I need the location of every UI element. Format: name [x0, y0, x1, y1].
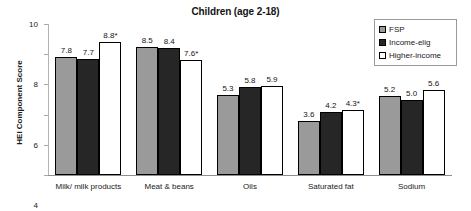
bar-group: 7.87.78.8* [48, 24, 129, 175]
y-tick-label: 6 [34, 140, 38, 149]
bar-value-label: 7.7 [83, 48, 94, 57]
bar [136, 47, 158, 175]
legend-swatch-icon [379, 52, 386, 59]
bar-value-label: 7.8 [61, 46, 72, 55]
bar-column: 5.8 [239, 24, 261, 175]
bar-value-label: 4.2 [325, 101, 336, 110]
y-tick-label: 8 [34, 80, 38, 89]
bar-value-label: 4.3* [346, 99, 360, 108]
bar [180, 60, 202, 175]
x-axis-line [48, 175, 452, 176]
bar-column: 5.9 [261, 24, 283, 175]
y-axis-title: HEI Component Score [15, 43, 24, 163]
bar-value-label: 5.6 [428, 79, 439, 88]
legend-item-higher-income: Higher-income [379, 49, 453, 62]
bar [239, 87, 261, 175]
bar-value-label: 3.6 [303, 110, 314, 119]
bar-value-label: 5.9 [266, 75, 277, 84]
bar [298, 121, 320, 175]
legend-swatch-icon [379, 39, 386, 46]
x-axis-label: Oils [243, 182, 257, 191]
bar [379, 96, 401, 175]
bar-value-label: 8.8* [103, 31, 117, 40]
bar-value-label: 7.6* [184, 49, 198, 58]
bar [342, 110, 364, 175]
legend-item-fsp: FSP [379, 23, 453, 36]
bar-value-label: 5.2 [384, 85, 395, 94]
legend-label: Higher-income [389, 51, 441, 60]
bar-value-label: 8.4 [164, 37, 175, 46]
bar [423, 90, 445, 175]
bar [77, 59, 99, 175]
x-axis-label: Saturated fat [308, 182, 354, 191]
legend-item-income-elig: Income-elig [379, 36, 453, 49]
legend-label: FSP [389, 25, 405, 34]
bar-group-bars: 7.87.78.8* [48, 24, 129, 175]
bar [261, 86, 283, 175]
bar-value-label: 5.8 [244, 76, 255, 85]
x-axis-label: Sodium [398, 182, 425, 191]
y-tick-mark: 0 [44, 175, 48, 176]
y-tick-label: 4 [34, 201, 38, 210]
bar [320, 112, 342, 175]
bar-value-label: 5.0 [406, 89, 417, 98]
bar [217, 95, 239, 175]
bar-chart: Children (age 2-18) HEI Component Score … [0, 0, 471, 211]
bar-column: 4.3* [342, 24, 364, 175]
bar-group: 3.64.24.3* [290, 24, 371, 175]
bar-group-bars: 3.64.24.3* [290, 24, 371, 175]
bar-column: 3.6 [298, 24, 320, 175]
bar-column: 4.2 [320, 24, 342, 175]
y-tick-label: 10 [29, 20, 38, 29]
bar-group-bars: 5.35.85.9 [210, 24, 291, 175]
x-axis-label: Milk/ milk products [55, 182, 121, 191]
legend: FSP Income-elig Higher-income [374, 19, 457, 66]
bar [99, 42, 121, 175]
bar-group: 8.58.47.6* [129, 24, 210, 175]
bar [55, 57, 77, 175]
bar-column: 8.4 [158, 24, 180, 175]
x-axis-label: Meat & beans [145, 182, 194, 191]
bar-column: 8.8* [99, 24, 121, 175]
bar-column: 5.3 [217, 24, 239, 175]
legend-swatch-icon [379, 26, 386, 33]
bar-column: 7.6* [180, 24, 202, 175]
bar [158, 48, 180, 175]
chart-title: Children (age 2-18) [0, 6, 471, 17]
bar-group-bars: 8.58.47.6* [129, 24, 210, 175]
bar-column: 7.8 [55, 24, 77, 175]
legend-label: Income-elig [389, 38, 430, 47]
bar-column: 8.5 [136, 24, 158, 175]
bar [401, 100, 423, 176]
bar-value-label: 5.3 [222, 84, 233, 93]
bar-value-label: 8.5 [142, 36, 153, 45]
bar-column: 7.7 [77, 24, 99, 175]
bar-group: 5.35.85.9 [210, 24, 291, 175]
